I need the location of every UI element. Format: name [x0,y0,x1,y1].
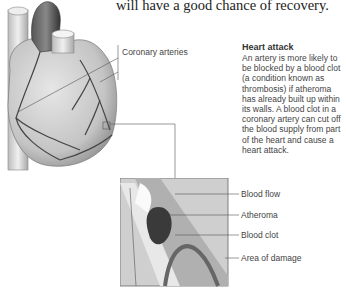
blood-clot-label: Blood clot [241,230,278,240]
diagram-leader-lines [0,0,346,292]
area-of-damage-label: Area of damage [241,253,301,263]
atheroma-label: Atheroma [241,210,278,220]
blood-flow-label: Blood flow [241,189,280,199]
